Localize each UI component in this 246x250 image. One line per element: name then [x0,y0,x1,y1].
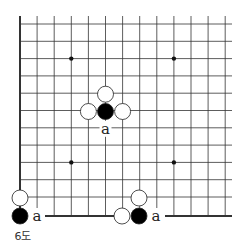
black-stone [131,208,147,224]
black-stone [12,208,28,224]
point-label: a [33,207,42,225]
point-label: a [101,120,110,138]
white-stone [114,208,130,224]
white-stone [80,104,96,120]
star-point [172,160,176,164]
star-point [69,160,73,164]
white-stone [12,190,28,206]
diagram-caption: 6도 [15,230,32,243]
white-stone [131,190,147,206]
inset-right: a [114,190,162,225]
star-point [172,56,176,60]
white-stone [115,104,131,120]
black-stone [98,104,114,120]
inset-left: a [12,190,43,225]
main-shape: a [80,86,130,138]
go-board: a a a 6도 [0,0,246,250]
star-point [69,56,73,60]
white-stone [98,86,114,102]
point-label: a [152,207,161,225]
